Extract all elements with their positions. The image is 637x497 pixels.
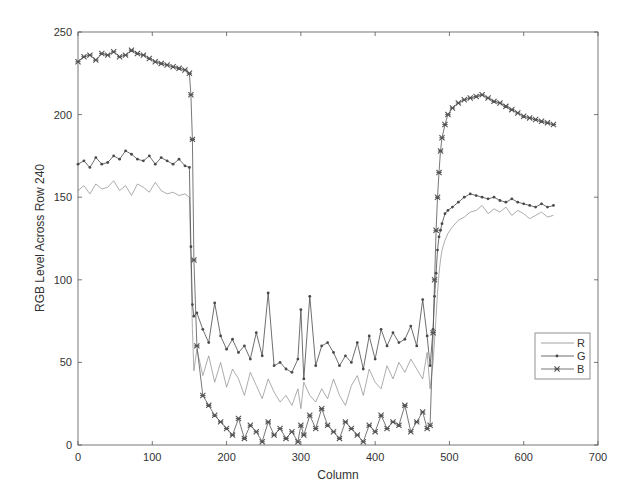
axes-frame [78,32,598,445]
y-tick-label: 150 [54,191,72,203]
legend-label: R [577,337,585,349]
y-axis-label: RGB Level Across Row 240 [33,164,47,312]
x-axis-label: Column [317,468,358,482]
x-tick-label: 600 [515,451,533,463]
legend: RGB [535,333,590,379]
line-chart: 0100200300400500600700050100150200250 Co… [0,0,637,497]
y-tick-label: 0 [66,439,72,451]
plot-area [75,48,556,445]
x-tick-label: 0 [75,451,81,463]
y-tick-label: 250 [54,26,72,38]
y-tick-label: 100 [54,274,72,286]
y-tick-label: 50 [60,356,72,368]
y-tick-label: 200 [54,109,72,121]
x-tick-label: 400 [366,451,384,463]
x-tick-label: 300 [292,451,310,463]
x-tick-label: 700 [589,451,607,463]
legend-label: B [577,363,584,375]
x-tick-label: 100 [143,451,161,463]
series-b [75,48,556,445]
x-tick-label: 500 [440,451,458,463]
x-tick-label: 200 [217,451,235,463]
series-g [77,150,555,381]
axes: 0100200300400500600700050100150200250 [54,26,608,463]
legend-label: G [577,350,586,362]
series-r [78,181,553,409]
